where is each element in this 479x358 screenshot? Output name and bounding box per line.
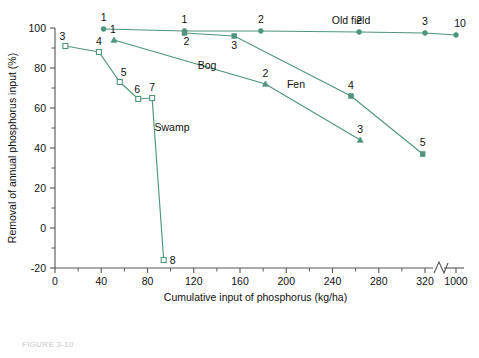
series-label-old-field: Old field [332,14,371,26]
series-label-bog: Bog [198,59,217,71]
series-line-fen [185,33,423,154]
point-label: 3 [231,39,237,51]
y-tick-label: 0 [40,222,46,234]
point-label: 4 [348,79,354,91]
series-line-old-field [104,29,456,35]
x-axis-break-icon [434,262,448,273]
data-point [117,80,122,85]
data-point [357,137,363,142]
y-tick-label: 40 [34,142,46,154]
x-tick-label: 160 [231,275,249,287]
point-label: 1 [110,23,116,35]
data-point [423,31,428,36]
y-tick-label: 20 [34,182,46,194]
point-label: 3 [59,30,65,42]
point-label: 6 [134,83,140,95]
series-label-swamp: Swamp [154,121,189,133]
point-label: 5 [420,136,426,148]
data-point [150,96,155,101]
point-label: 2 [263,67,269,79]
point-label: 2 [258,13,264,25]
x-tick-label: 120 [185,275,203,287]
x-tick-label: 200 [277,275,295,287]
data-point [63,44,68,49]
point-label: 7 [149,81,155,93]
point-label: 8 [170,254,176,266]
series-label-fen: Fen [287,78,305,90]
data-point [420,152,425,157]
x-tick-label: 320 [416,275,434,287]
data-point [454,33,459,38]
point-label: 3 [422,15,428,27]
figure-caption: FIGURE 3-10 [22,340,74,349]
y-tick-label: -20 [31,262,46,274]
data-point [111,37,117,42]
data-point [232,34,237,39]
point-label: 3 [357,123,363,135]
point-label: 1 [101,11,107,23]
point-label: 10 [454,17,466,29]
x-tick-label: 0 [52,275,58,287]
x-axis-title: Cumulative input of phosphorus (kg/ha) [164,291,347,303]
data-point [136,97,141,102]
phosphorus-removal-chart: -200204060801000408012016020024028032010… [0,0,479,358]
data-point [161,258,166,263]
series-line-swamp [65,46,163,260]
point-label: 5 [121,66,127,78]
x-tick-label: 240 [324,275,342,287]
x-tick-label: 1000 [444,275,468,287]
data-point [357,30,362,35]
x-tick-label: 40 [95,275,107,287]
point-label: 4 [96,35,102,47]
point-label: 2 [184,35,190,47]
y-tick-label: 80 [34,62,46,74]
y-tick-label: 100 [28,22,46,34]
chart-svg: -200204060801000408012016020024028032010… [0,0,479,358]
data-point [258,29,263,34]
x-tick-label: 80 [142,275,154,287]
x-tick-label: 280 [370,275,388,287]
data-point [101,27,106,32]
data-point [96,50,101,55]
y-axis-title: Removal of annual phosphorus input (%) [6,53,18,243]
data-point [349,94,354,99]
point-label: 1 [182,13,188,25]
y-tick-label: 60 [34,102,46,114]
